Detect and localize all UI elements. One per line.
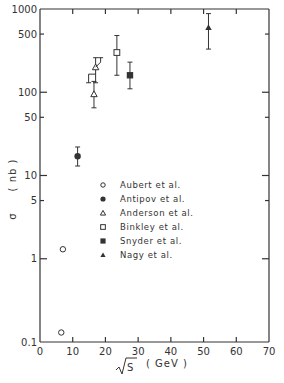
open-square-icon	[101, 225, 106, 230]
y-tick-label: 50	[24, 112, 37, 123]
x-tick-label: 40	[164, 346, 177, 357]
y-tick-label: 5	[31, 195, 37, 206]
y-tick-label: 500	[18, 29, 37, 40]
y-axis-label-sigma: σ	[7, 212, 18, 219]
cross-section-chart: 010203040506070 0.11510501005001000 ( nb…	[0, 0, 284, 383]
legend-label: Antipov et al.	[120, 194, 185, 204]
legend-item: Antipov et al.	[100, 194, 185, 204]
x-axis-label: S ( GeV )	[116, 358, 188, 374]
legend-label: Nagy et al.	[120, 250, 173, 260]
legend-item: Binkley et al.	[101, 222, 184, 232]
y-axis-label-unit: ( nb )	[7, 159, 18, 192]
series-aubert	[59, 247, 66, 336]
series-snyder	[127, 62, 133, 89]
x-tick-label: 30	[132, 346, 145, 357]
filled-triangle-icon	[205, 24, 211, 30]
legend-label: Anderson et al.	[120, 208, 194, 218]
open-circle-icon	[60, 247, 65, 252]
series-nagy	[205, 14, 211, 49]
y-axis-label: ( nb ) σ	[7, 159, 18, 220]
legend: Aubert et al.Antipov et al.Anderson et a…	[100, 180, 193, 260]
filled-circle-icon	[74, 153, 80, 159]
filled-circle-icon	[100, 196, 105, 201]
legend-item: Anderson et al.	[100, 208, 193, 218]
x-axis-label-root: S	[127, 362, 134, 373]
open-circle-icon	[101, 183, 105, 187]
x-tick-label: 0	[37, 346, 43, 357]
legend-item: Aubert et al.	[101, 180, 181, 190]
open-triangle-icon	[91, 91, 97, 97]
legend-label: Snyder et al.	[120, 236, 182, 246]
legend-label: Binkley et al.	[120, 222, 184, 232]
open-circle-icon	[59, 330, 64, 335]
x-tick-label: 50	[197, 346, 210, 357]
open-triangle-icon	[100, 210, 105, 215]
plot-frame	[40, 9, 269, 342]
y-axis-ticks: 0.11510501005001000	[12, 4, 269, 348]
filled-square-icon	[100, 238, 105, 243]
x-tick-label: 10	[66, 346, 79, 357]
x-axis-label-unit: ( GeV )	[146, 358, 188, 369]
x-tick-label: 60	[230, 346, 243, 357]
open-square-icon	[114, 50, 120, 56]
legend-item: Snyder et al.	[100, 236, 182, 246]
y-tick-label: 1000	[12, 4, 37, 15]
data-series	[59, 14, 212, 336]
legend-label: Aubert et al.	[120, 180, 181, 190]
series-antipov	[74, 147, 80, 166]
x-tick-label: 20	[99, 346, 112, 357]
series-binkley	[114, 36, 120, 76]
y-tick-label: 1	[31, 253, 37, 264]
filled-triangle-icon	[100, 252, 105, 257]
y-tick-label: 0.1	[21, 337, 37, 348]
y-tick-label: 100	[18, 87, 37, 98]
legend-item: Nagy et al.	[100, 250, 172, 260]
y-tick-label: 10	[24, 170, 37, 181]
x-tick-label: 70	[263, 346, 276, 357]
filled-square-icon	[127, 72, 133, 78]
